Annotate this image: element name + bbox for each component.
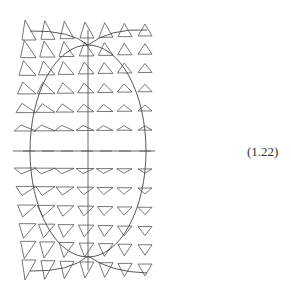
vector-triangle (56, 104, 74, 112)
vector-triangle (117, 188, 132, 195)
vector-triangle (18, 205, 37, 217)
vector-triangle (138, 227, 152, 236)
vector-triangle (35, 168, 56, 174)
vector-triangle (118, 226, 133, 236)
vector-triangle (118, 244, 132, 256)
vector-triangle (18, 82, 37, 94)
vector-triangle (77, 187, 94, 195)
vector-triangle (21, 241, 37, 258)
vector-triangle (96, 126, 113, 131)
vector-triangle (117, 84, 132, 92)
vector-triangle (80, 262, 94, 278)
bottom-arc (30, 256, 147, 273)
vector-triangle (79, 62, 95, 74)
vector-triangle (21, 40, 37, 57)
vector-triangle (79, 225, 95, 237)
vector-triangle (98, 84, 114, 93)
vector-triangle (138, 188, 152, 194)
vector-triangle (138, 264, 152, 276)
vector-triangle (22, 20, 36, 40)
vector-triangle (36, 187, 55, 196)
vector-triangle (138, 84, 152, 91)
vector-triangle (55, 125, 74, 130)
vector-triangle (14, 125, 36, 131)
vector-triangle (138, 105, 152, 111)
vector-triangle (57, 83, 74, 93)
vector-triangle (76, 168, 94, 173)
vector-triangle (117, 169, 132, 173)
vector-triangle (14, 168, 36, 174)
vector-triangle (56, 187, 74, 195)
vector-triangle (78, 206, 94, 216)
vector-triangle (55, 168, 74, 173)
vector-triangle (16, 103, 36, 112)
vector-triangle (58, 62, 74, 75)
vector-triangle (117, 207, 132, 215)
vector-triangle (118, 43, 132, 55)
vector-triangle (58, 225, 74, 238)
vector-triangle (117, 126, 132, 130)
vector-triangle (22, 260, 36, 280)
vector-triangle (40, 41, 55, 57)
vector-triangles (14, 20, 152, 280)
vector-triangle (96, 169, 113, 174)
vector-triangle (40, 242, 55, 258)
vector-triangle (77, 104, 94, 112)
vector-triangle (41, 21, 55, 40)
vector-triangle (19, 224, 36, 239)
vector-triangle (97, 104, 113, 111)
equation-number: (1.22) (247, 144, 278, 160)
vector-triangle (36, 104, 55, 113)
vector-triangle (118, 63, 133, 73)
vector-triangle (98, 226, 113, 237)
vector-triangle (78, 83, 94, 93)
vector-triangle (138, 64, 152, 73)
vector-triangle (97, 187, 113, 194)
vector-triangle (19, 61, 36, 76)
vector-triangle (60, 261, 74, 278)
vector-triangle (35, 125, 56, 131)
vector-triangle (138, 207, 152, 214)
axes (13, 30, 155, 270)
vector-triangle (138, 245, 152, 255)
vector-triangle (99, 263, 113, 278)
vector-triangle (57, 206, 74, 216)
vector-triangle (98, 63, 113, 74)
vector-triangle (98, 207, 114, 216)
vector-triangle (39, 61, 56, 75)
vector-triangle (138, 44, 152, 54)
vector-triangle (76, 125, 94, 130)
vector-triangle (80, 22, 94, 38)
vector-triangle (79, 243, 94, 257)
vector-triangle (117, 105, 132, 112)
